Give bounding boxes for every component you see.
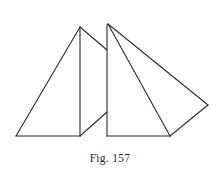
geometry-figure-svg	[0, 0, 220, 193]
far-point-to-base-right	[170, 105, 208, 136]
figure-line-group	[16, 24, 208, 136]
figure-caption: Fig. 157	[0, 152, 220, 164]
right-apex-to-far-point	[108, 24, 208, 105]
right-apex-to-base-right	[108, 24, 170, 136]
cross-diagonal	[80, 112, 107, 136]
left-apex-to-right-vertical	[80, 27, 107, 50]
left-triangle-left-side	[16, 27, 80, 136]
figure-container: Fig. 157	[0, 0, 220, 193]
